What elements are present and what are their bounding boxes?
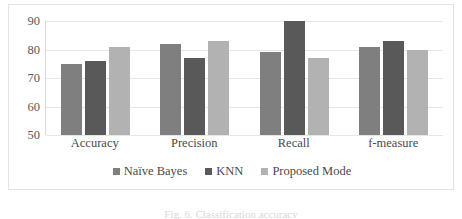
chart-legend: Naïve BayesKNNProposed Mode (9, 165, 455, 178)
legend-label: KNN (216, 165, 243, 178)
y-axis-tick-label: 80 (28, 43, 41, 56)
bar (208, 41, 229, 135)
bar (184, 58, 205, 135)
bars-layer (46, 21, 443, 135)
bar (308, 58, 329, 135)
legend-swatch-icon (205, 168, 212, 175)
bar (407, 50, 428, 136)
legend-item[interactable]: KNN (205, 165, 243, 178)
legend-swatch-icon (113, 168, 120, 175)
bar (383, 41, 404, 135)
x-axis-category-labels: AccuracyPrecisionRecallf-measure (45, 137, 443, 151)
category-label: Recall (244, 137, 344, 151)
chart-card: 5060708090 AccuracyPrecisionRecallf-meas… (8, 4, 454, 190)
bar (284, 21, 305, 135)
bar (260, 52, 281, 135)
bar (160, 44, 181, 135)
bar (85, 61, 106, 135)
category-label: Accuracy (45, 137, 145, 151)
bar-group (245, 21, 344, 135)
y-axis-tick-label: 50 (28, 129, 41, 142)
legend-swatch-icon (261, 168, 268, 175)
category-label: f-measure (344, 137, 444, 151)
legend-label: Naïve Bayes (124, 165, 188, 178)
legend-item[interactable]: Naïve Bayes (113, 165, 188, 178)
bar-chart-figure: 5060708090 AccuracyPrecisionRecallf-meas… (0, 0, 462, 219)
bar-group (344, 21, 443, 135)
figure-caption: Fig. 6. Classification accuracy (0, 208, 462, 219)
legend-item[interactable]: Proposed Mode (261, 165, 351, 178)
bar (109, 47, 130, 135)
legend-label: Proposed Mode (272, 165, 351, 178)
bar-group (46, 21, 145, 135)
y-axis-tick-label: 70 (28, 72, 41, 85)
plot-area: 5060708090 (45, 21, 443, 135)
bar (359, 47, 380, 135)
category-label: Precision (145, 137, 245, 151)
y-axis-tick-label: 60 (28, 100, 41, 113)
bar-group (145, 21, 244, 135)
y-axis-tick-label: 90 (28, 15, 41, 28)
bar (61, 64, 82, 135)
